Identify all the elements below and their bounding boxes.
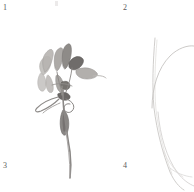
- bract-right-flare: [76, 68, 98, 79]
- grass-blade-arc-lower: [158, 112, 194, 186]
- quadrant-label-3: 3: [3, 162, 7, 170]
- stem-node-dark: [58, 92, 70, 100]
- bract-right-tip: [93, 76, 106, 78]
- bract-lower-left-pale-2: [46, 75, 53, 93]
- grass-blade-group: [0, 0, 194, 192]
- leaf-droop-mid: [56, 75, 64, 92]
- leaf-tall-dark: [62, 44, 71, 69]
- stem-spindle-bulb: [60, 110, 69, 135]
- grass-blade-vertical: [153, 38, 184, 190]
- quadrant-label-4: 4: [123, 162, 127, 170]
- quadrant-label-2: 2: [123, 4, 127, 12]
- flower-anther-cluster: [61, 81, 70, 90]
- specimen-upper-shoot: [0, 0, 194, 192]
- pedicel-cross: [52, 84, 72, 86]
- pedicel-right: [66, 68, 72, 92]
- top-tick-mark: [55, 1, 58, 6]
- pedicel-left: [57, 72, 62, 92]
- main-stem: [63, 90, 71, 178]
- specimen-grid: 1 2 3 4: [0, 0, 194, 192]
- bract-lower-left-pale: [38, 73, 46, 91]
- leaf-upper-left: [43, 49, 54, 72]
- basal-leaf-left-curl: [36, 97, 59, 112]
- grass-blade-arc: [152, 46, 194, 108]
- bract-centre-dark: [69, 57, 83, 70]
- bract-upper-left: [40, 56, 52, 75]
- specimen-lower-stem: [0, 0, 194, 192]
- stem-lower-filament: [66, 132, 70, 176]
- grass-blade-fork: [170, 168, 192, 177]
- grass-blade-vertical-edge: [155, 40, 172, 174]
- basal-leaf-left-lower: [43, 103, 60, 113]
- grass-blade-tip: [163, 150, 183, 177]
- leaf-central-upright: [54, 48, 63, 71]
- stem-spindle-core: [63, 113, 67, 132]
- quadrant-label-1: 1: [3, 4, 7, 12]
- tendril-loop-right: [64, 99, 74, 112]
